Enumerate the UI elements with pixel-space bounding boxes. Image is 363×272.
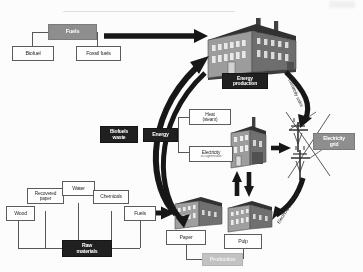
paper-label: Paper [180,235,193,240]
fuels-group-label: Fuels [66,29,80,35]
recovered-paper-label-line2: paper [40,196,51,201]
biofuels-waste-box[interactable]: Biofuels waste [100,126,138,143]
heat-steam-sublabel: (steam) [203,117,218,122]
arrow-production-exchange [232,171,254,197]
fuels-raw-box[interactable]: Fuels [124,206,156,221]
production-box[interactable]: Production [202,253,243,266]
fuels-raw-label: Fuels [134,211,146,216]
chemicals-label: Chemicals [100,194,122,199]
biofuel-label: Biofuel [25,51,40,57]
energy-production-label-line2: production [233,81,257,86]
raw-materials-box[interactable]: Raw materials [62,240,112,257]
mill-building-icon-pulp [228,201,272,232]
electricity-grid-label-line2: grid [330,142,339,147]
electricity-cogeneration-box[interactable]: Electricity as cogeneration [189,146,233,162]
pulp-label: Pulp [238,239,248,244]
arrow-mill-to-grid [271,143,291,154]
chemicals-box[interactable]: Chemicals [93,190,129,204]
water-label: Water [72,186,85,191]
wood-box[interactable]: Wood [6,206,35,221]
arrow-fuels-to-energy-production [104,29,208,43]
factory-building-icon [208,18,296,80]
electricity-sublabel: as cogeneration [201,155,222,158]
raw-materials-label-line2: materials [77,249,98,254]
small-factory-icon [231,117,266,168]
recovered-paper-box[interactable]: Recovered paper [27,188,64,204]
production-label: Production [210,257,235,262]
energy-group-label: Energy [152,132,168,137]
pulp-box[interactable]: Pulp [224,234,262,249]
heat-steam-box[interactable]: Heat (steam) [189,109,231,125]
electricity-grid-box[interactable]: Electricity grid [313,133,355,150]
biofuel-box[interactable]: Biofuel [12,46,54,61]
arrow-electricity-purchase [272,178,303,220]
biofuels-waste-label-line2: waste [113,135,126,140]
energy-group-box[interactable]: Energy [143,128,178,142]
energy-production-label-box[interactable]: Energy production [222,73,268,89]
fossil-fuels-box[interactable]: Fossil fuels [76,46,121,61]
water-box[interactable]: Water [62,181,95,196]
wood-label: Wood [14,211,27,216]
process-flow-diagram: Fuels Biofuel Fossil fuels Energy produc… [0,0,363,272]
fossil-fuels-label: Fossil fuels [86,51,111,57]
paper-box[interactable]: Paper [166,230,206,245]
fuels-group-box[interactable]: Fuels [48,24,97,40]
